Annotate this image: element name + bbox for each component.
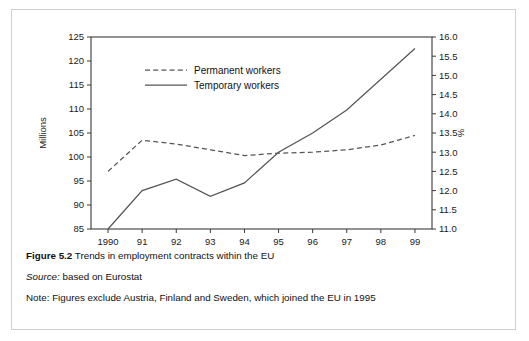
y-tick-label: 120 [68,55,84,66]
x-tick-label: 93 [205,236,216,246]
caption-block: Figure 5.2 Trends in employment contract… [12,246,517,330]
figure-number: Figure 5.2 [26,250,72,261]
x-tick-label: 97 [341,236,352,246]
source-text: based on Eurostat [63,271,143,282]
right-axis: 11.011.512.012.513.013.514.014.515.015.5… [432,31,458,234]
y2-tick-label: 12.0 [439,185,458,196]
y-tick-label: 105 [68,127,84,138]
y-tick-label: 110 [69,103,84,114]
x-tick-label: 95 [273,236,284,246]
y2-tick-label: 14.0 [439,108,458,119]
series-permanent-workers [108,135,415,171]
x-tick-label: 99 [410,236,421,246]
x-tick-label: 1990 [97,236,118,246]
chart-legend: Permanent workersTemporary workers [145,65,281,91]
line-chart: 859095100105110115120125 11.011.512.012.… [12,10,517,246]
y2-tick-label: 15.0 [439,70,458,81]
y2-tick-label: 15.5 [439,51,458,62]
y-tick-label: 115 [69,79,84,90]
y-tick-label: 100 [68,151,84,162]
y2-tick-label: 12.5 [439,166,458,177]
y-tick-label: 90 [73,199,84,210]
y2-tick-label: 11.0 [439,223,457,234]
chart-figure: 859095100105110115120125 11.011.512.012.… [12,10,517,246]
left-axis: 859095100105110115120125 [68,31,91,234]
figure-title: Trends in employment contracts within th… [75,250,274,261]
y-axis-title: Millions [37,117,48,149]
x-tick-label: 96 [307,236,318,246]
y2-tick-label: 16.0 [439,31,458,42]
x-axis: 1990919293949596979899 [97,229,420,246]
x-tick-label: 91 [137,236,148,246]
legend-label-permanent-workers: Permanent workers [194,65,281,76]
figure-caption: Figure 5.2 Trends in employment contract… [26,250,503,262]
x-tick-label: 94 [239,236,250,246]
y2-tick-label: 11.5 [439,204,457,215]
x-tick-label: 92 [171,236,182,246]
y2-axis-title: % [455,128,466,137]
source-label: Source: [26,271,60,282]
figure-source: Source: based on Eurostat [26,271,503,283]
y2-tick-label: 13.0 [439,147,458,158]
y-tick-label: 95 [73,175,84,186]
y2-tick-label: 14.5 [439,89,458,100]
y-tick-label: 125 [68,31,84,42]
x-tick-label: 98 [376,236,387,246]
legend-label-temporary-workers: Temporary workers [194,80,279,91]
figure-card: 859095100105110115120125 11.011.512.012.… [11,9,516,330]
y-tick-label: 85 [73,223,84,234]
figure-note: Note: Figures exclude Austria, Finland a… [26,292,503,304]
